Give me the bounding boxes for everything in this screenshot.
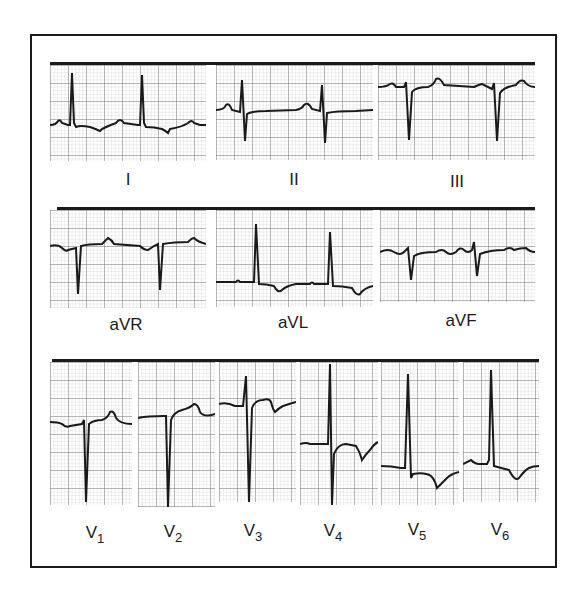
ecg-trace-lead-V6 [463,362,539,502]
ecg-trace-lead-V5 [381,362,459,505]
lead-label-I: I [88,170,168,190]
ecg-panel-lead-aVF [380,210,535,302]
ecg-panel-lead-V5 [381,362,459,505]
lead-label-V4: V4 [293,521,373,544]
ecg-panel-lead-III [378,65,535,160]
ecg-panel-lead-V4 [300,362,378,505]
ecg-panel-lead-aVL [216,210,373,307]
ecg-panel-lead-V2 [138,362,215,507]
ecg-panel-lead-II [216,65,373,160]
ecg-trace-lead-V4 [300,362,378,505]
lead-label-aVR: aVR [86,315,166,335]
ecg-panel-lead-V6 [463,362,539,502]
lead-label-V2: V2 [133,522,213,545]
ecg-trace-lead-II [216,65,373,160]
ecg-trace-lead-aVL [216,210,373,307]
lead-label-V6: V6 [460,520,540,543]
lead-label-II: II [254,170,334,190]
ecg-trace-lead-V1 [50,362,132,505]
ecg-panel-lead-V3 [219,362,296,502]
lead-label-V3: V3 [213,521,293,544]
ecg-trace-lead-aVF [380,210,535,302]
lead-label-V1: V1 [55,523,135,546]
ecg-trace-lead-V2 [138,362,215,507]
lead-label-III: III [417,172,497,192]
ecg-panel-lead-I [50,65,206,161]
lead-label-aVF: aVF [421,311,501,331]
ecg-trace-lead-III [378,65,535,160]
ecg-panel-lead-V1 [50,362,132,505]
ecg-trace-lead-V3 [219,362,296,502]
ecg-trace-lead-aVR [50,210,206,308]
lead-label-aVL: aVL [253,313,333,333]
ecg-panel-lead-aVR [50,210,206,308]
ecg-trace-lead-I [50,65,206,161]
lead-label-V5: V5 [377,520,457,543]
